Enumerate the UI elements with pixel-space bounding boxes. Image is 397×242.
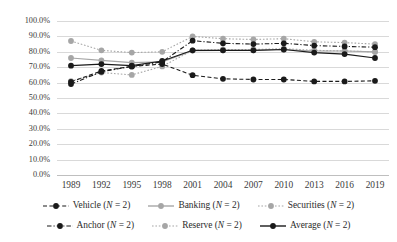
legend-item-banking[interactable]: Banking (N = 2) (148, 201, 239, 211)
legend-item-average[interactable]: Average (N = 2) (260, 221, 351, 231)
gridline-40 (57, 113, 389, 114)
y-tick-0: 0.0% (0, 171, 50, 179)
x-tick-2019: 2019 (355, 181, 395, 190)
y-tick-70: 70.0% (0, 63, 50, 71)
plot-area (57, 21, 389, 175)
gridline-100 (57, 21, 389, 22)
gridline-80 (57, 52, 389, 53)
gridline-50 (57, 98, 389, 99)
y-tick-30: 30.0% (0, 125, 50, 133)
y-tick-50: 50.0% (0, 94, 50, 102)
line-chart: 100.0%90.0%80.0%70.0%60.0%50.0%40.0%30.0… (0, 0, 397, 242)
legend-swatch-reserve (152, 221, 178, 231)
gridline-30 (57, 129, 389, 130)
legend-item-anchor[interactable]: Anchor (N = 2) (47, 221, 135, 231)
gridline-20 (57, 144, 389, 145)
legend-label-anchor: Anchor (N = 2) (77, 221, 135, 230)
legend-item-vehicle[interactable]: Vehicle (N = 2) (43, 201, 131, 211)
y-tick-60: 60.0% (0, 79, 50, 87)
legend-swatch-securities (258, 201, 284, 211)
legend-swatch-banking (148, 201, 174, 211)
chart-legend: Vehicle (N = 2)Banking (N = 2)Securities… (0, 196, 397, 236)
legend-item-reserve[interactable]: Reserve (N = 2) (152, 221, 242, 231)
legend-swatch-anchor (47, 221, 73, 231)
y-tick-90: 90.0% (0, 32, 50, 40)
legend-label-securities: Securities (N = 2) (288, 201, 355, 210)
y-tick-10: 10.0% (0, 156, 50, 164)
gridline-10 (57, 160, 389, 161)
y-tick-20: 20.0% (0, 140, 50, 148)
gridline-70 (57, 67, 389, 68)
gridline-0 (57, 175, 389, 176)
legend-item-securities[interactable]: Securities (N = 2) (258, 201, 355, 211)
gridline-90 (57, 36, 389, 37)
gridline-60 (57, 83, 389, 84)
legend-row-bottom: Anchor (N = 2)Reserve (N = 2)Average (N … (0, 216, 397, 236)
legend-label-banking: Banking (N = 2) (178, 201, 239, 210)
legend-row-top: Vehicle (N = 2)Banking (N = 2)Securities… (0, 196, 397, 216)
y-tick-40: 40.0% (0, 109, 50, 117)
y-tick-80: 80.0% (0, 48, 50, 56)
legend-swatch-average (260, 221, 286, 231)
legend-swatch-vehicle (43, 201, 69, 211)
legend-label-vehicle: Vehicle (N = 2) (73, 201, 131, 210)
legend-label-reserve: Reserve (N = 2) (182, 221, 242, 230)
y-tick-100: 100.0% (0, 17, 50, 25)
legend-label-average: Average (N = 2) (290, 221, 351, 230)
